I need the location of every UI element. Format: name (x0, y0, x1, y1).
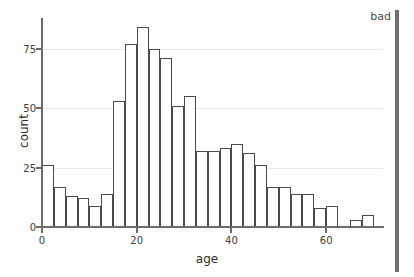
histogram-bar (208, 151, 220, 227)
annotation-label: bad (370, 10, 391, 23)
x-tick-label: 20 (130, 235, 143, 246)
y-tick-mark (36, 48, 42, 50)
histogram-bar (78, 198, 90, 227)
histogram-bar (243, 153, 255, 227)
gridline (42, 108, 383, 109)
y-axis-title: count (17, 101, 31, 161)
histogram-bar (149, 49, 161, 227)
x-tick-mark (325, 228, 327, 233)
x-tick-mark (41, 228, 43, 233)
x-axis-line (41, 226, 384, 228)
annotation-marker-bar (395, 10, 399, 272)
histogram-figure: 0255075 0204060 count age bad (0, 0, 414, 277)
y-tick-mark (36, 107, 42, 109)
histogram-bar (137, 27, 149, 227)
histogram-bar (54, 187, 66, 227)
histogram-bar (231, 144, 243, 227)
histogram-bar (302, 194, 314, 227)
histogram-bar (279, 187, 291, 227)
histogram-bar (255, 165, 267, 227)
histogram-bar (220, 148, 232, 227)
gridline (42, 49, 383, 50)
x-tick-label: 40 (225, 235, 238, 246)
histogram-bar (326, 206, 338, 227)
x-tick-mark (136, 228, 138, 233)
histogram-bar (160, 58, 172, 227)
y-tick-label: 75 (23, 43, 36, 54)
x-axis-title: age (0, 252, 414, 266)
x-tick-mark (230, 228, 232, 233)
histogram-bar (89, 206, 101, 227)
histogram-bar (314, 208, 326, 227)
histogram-bar (267, 187, 279, 227)
histogram-bar (101, 194, 113, 227)
y-tick-label: 0 (30, 222, 36, 233)
histogram-bar (66, 196, 78, 227)
x-tick-label: 60 (320, 235, 333, 246)
histogram-bar (196, 151, 208, 227)
histogram-bar (42, 165, 54, 227)
histogram-bar (113, 101, 125, 227)
histogram-bar (125, 44, 137, 227)
y-tick-mark (36, 167, 42, 169)
y-tick-label: 25 (23, 162, 36, 173)
histogram-bar (291, 194, 303, 227)
plot-area (42, 20, 383, 227)
histogram-bar (172, 106, 184, 227)
x-tick-label: 0 (39, 235, 45, 246)
histogram-bar (184, 96, 196, 227)
